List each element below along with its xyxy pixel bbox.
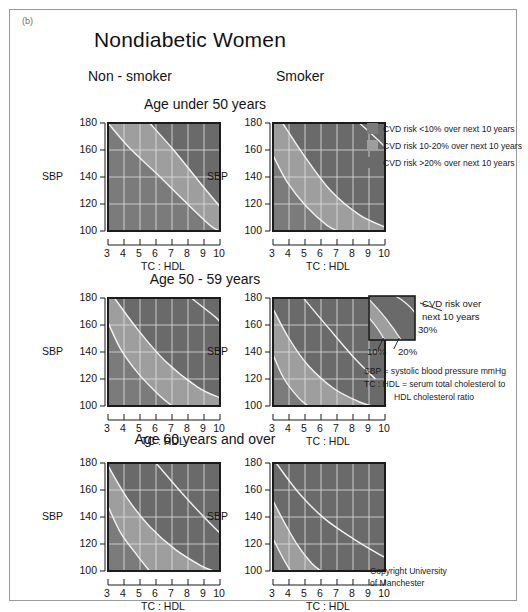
y-tick-label: 120: [230, 372, 262, 384]
y-tick-label: 180: [65, 116, 97, 128]
inset-label-30: 30%: [418, 324, 437, 335]
column-header-smoker: Smoker: [225, 68, 375, 84]
y-axis-title: SBP: [33, 510, 63, 522]
y-axis-title: SBP: [33, 170, 63, 182]
y-tick-label: 100: [65, 224, 97, 236]
y-axis: [263, 462, 271, 572]
y-axis-title: SBP: [198, 170, 228, 182]
legend-item-high: CVD risk >20% over next 10 years: [367, 157, 515, 168]
copyright-line2: of Manchester: [370, 578, 424, 589]
y-axis: [263, 297, 271, 407]
y-tick-label: 180: [230, 116, 262, 128]
y-tick-label: 160: [230, 483, 262, 495]
x-axis: [272, 413, 386, 421]
y-tick-label: 100: [230, 564, 262, 576]
y-tick-label: 180: [230, 291, 262, 303]
legend-swatch-low: [367, 123, 378, 134]
y-tick-label: 140: [230, 345, 262, 357]
y-axis: [98, 297, 106, 407]
y-axis-title: SBP: [33, 345, 63, 357]
inset-label-20: 20%: [398, 346, 417, 357]
y-tick-label: 120: [65, 537, 97, 549]
x-axis: [107, 413, 221, 421]
figure-frame: (b) Nondiabetic Women Non - smoker Smoke…: [9, 9, 517, 601]
y-tick-label: 180: [65, 456, 97, 468]
y-tick-label: 180: [65, 291, 97, 303]
y-tick-label: 100: [230, 399, 262, 411]
y-tick-label: 120: [65, 372, 97, 384]
y-tick-label: 120: [230, 537, 262, 549]
x-tick-label: 10: [375, 587, 393, 599]
note-tchdl-1: TC : HDL = serum total cholesterol to: [364, 379, 505, 389]
y-tick-label: 140: [65, 170, 97, 182]
x-axis: [107, 238, 221, 246]
y-tick-label: 160: [65, 318, 97, 330]
y-tick-label: 140: [230, 510, 262, 522]
y-axis: [98, 462, 106, 572]
y-tick-label: 140: [230, 170, 262, 182]
x-tick-label: 10: [375, 422, 393, 434]
row-header-under50: Age under 50 years: [30, 96, 380, 112]
y-axis: [98, 122, 106, 232]
legend-label-mid: CVD risk 10-20% over next 10 years: [383, 141, 522, 151]
figure-panel-label: (b): [22, 16, 33, 26]
y-tick-label: 100: [230, 224, 262, 236]
copyright-line1: Copyright University: [370, 566, 447, 577]
inset-label-10: 10%: [367, 346, 386, 357]
y-tick-label: 180: [230, 456, 262, 468]
figure-title: Nondiabetic Women: [10, 28, 370, 52]
risk-surface: [272, 122, 386, 232]
legend-item-mid: CVD risk 10-20% over next 10 years: [367, 140, 522, 151]
column-header-nonsmoker: Non - smoker: [40, 68, 220, 84]
x-axis-title: TC : HDL: [107, 435, 219, 447]
x-axis-title: TC : HDL: [272, 260, 384, 272]
legend-swatch-high: [367, 157, 378, 168]
y-tick-label: 100: [65, 564, 97, 576]
y-tick-label: 120: [230, 197, 262, 209]
x-tick-label: 10: [210, 587, 228, 599]
x-axis: [107, 578, 221, 586]
note-sbp: SBP = systolic blood pressure mmHg: [364, 366, 506, 376]
y-axis-title: SBP: [198, 345, 228, 357]
risk-chart-age60plus-smoker: [272, 462, 386, 572]
y-tick-label: 120: [65, 197, 97, 209]
legend-label-low: CVD risk <10% over next 10 years: [383, 124, 515, 134]
y-axis: [263, 122, 271, 232]
y-tick-label: 160: [230, 318, 262, 330]
y-tick-label: 160: [65, 483, 97, 495]
y-axis-title: SBP: [198, 510, 228, 522]
x-axis: [272, 238, 386, 246]
x-tick-label: 10: [375, 247, 393, 259]
note-tchdl-2: HDL cholesterol ratio: [394, 392, 474, 402]
x-axis-title: TC : HDL: [107, 600, 219, 612]
x-tick-label: 10: [210, 422, 228, 434]
risk-surface: [272, 462, 386, 572]
legend-label-high: CVD risk >20% over next 10 years: [383, 158, 515, 168]
inset-caption-line1: CVD risk over: [422, 298, 481, 309]
x-tick-label: 10: [210, 247, 228, 259]
x-axis-title: TC : HDL: [272, 435, 384, 447]
row-header-age50-59: Age 50 - 59 years: [30, 271, 380, 287]
x-axis-title: TC : HDL: [107, 260, 219, 272]
risk-chart-under50-smoker: [272, 122, 386, 232]
inset-caption-line2: next 10 years: [422, 311, 480, 322]
y-tick-label: 160: [65, 143, 97, 155]
legend-swatch-mid: [367, 140, 378, 151]
legend-item-low: CVD risk <10% over next 10 years: [367, 123, 515, 134]
x-axis: [272, 578, 386, 586]
y-tick-label: 160: [230, 143, 262, 155]
y-tick-label: 140: [65, 510, 97, 522]
y-tick-label: 140: [65, 345, 97, 357]
x-axis-title: TC : HDL: [272, 600, 384, 612]
y-tick-label: 100: [65, 399, 97, 411]
